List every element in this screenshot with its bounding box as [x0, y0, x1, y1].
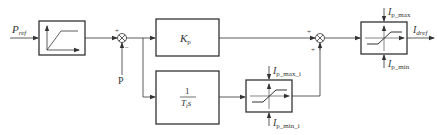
ip-min-label: Ip_min: [387, 58, 410, 71]
sum2-plus-left: +: [307, 28, 311, 36]
integrator-denominator: Tis: [181, 98, 192, 109]
ip-max-label: Ip_max: [387, 6, 411, 19]
sum1-minus-sign: −: [125, 44, 129, 52]
sum1-plus-sign: +: [115, 27, 119, 35]
block-diagram: Pref + − P Kp 1 Tis Ip_max_i Ip_min_i + …: [0, 0, 437, 135]
idref-output-label: Idref: [412, 24, 428, 37]
integrator-numerator: 1: [185, 86, 190, 96]
ip-min-i-label: Ip_min_i: [272, 117, 300, 130]
kp-label: Kp: [179, 32, 191, 46]
pref-label: Pref: [11, 23, 27, 37]
sum2-plus-bottom: +: [311, 46, 315, 54]
p-feedback-label: P: [118, 75, 124, 86]
ip-max-i-label: Ip_max_i: [272, 65, 301, 78]
